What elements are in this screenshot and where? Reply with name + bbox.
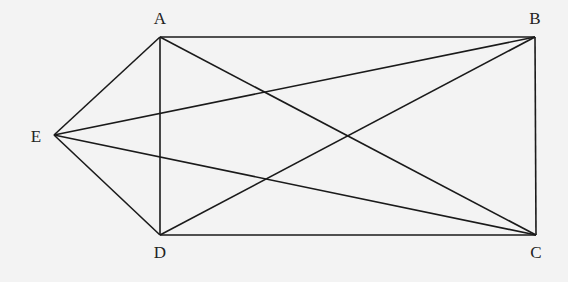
segment-BC <box>535 37 536 235</box>
diagram-canvas <box>0 0 568 282</box>
geometry-diagram: A B C D E <box>0 0 568 282</box>
point-label-b: B <box>529 10 540 27</box>
segment-EC <box>54 135 536 235</box>
segment-EB <box>54 37 535 135</box>
segment-ED <box>54 135 160 235</box>
point-label-c: C <box>530 244 541 261</box>
segment-EA <box>54 37 160 135</box>
point-label-e: E <box>31 128 41 145</box>
point-label-d: D <box>154 244 166 261</box>
point-label-a: A <box>154 10 166 27</box>
